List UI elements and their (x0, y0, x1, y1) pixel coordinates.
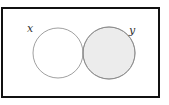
set-x-label: x (27, 22, 34, 35)
set-y-label: y (128, 24, 136, 37)
universal-set-border (2, 8, 159, 97)
venn-diagram: x y (0, 0, 169, 105)
